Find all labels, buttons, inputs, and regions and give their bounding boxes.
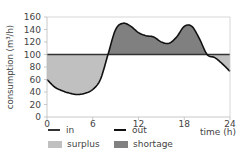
legend-out-label: out bbox=[132, 125, 147, 135]
surplus-swatch bbox=[48, 141, 62, 148]
y-tick-label: 120 bbox=[24, 37, 41, 47]
legend-in-label: in bbox=[66, 125, 74, 135]
y-axis-label: consumption (m³/h) bbox=[5, 25, 15, 109]
x-tick-label: 6 bbox=[90, 119, 96, 129]
legend-in: in bbox=[48, 125, 74, 135]
y-tick-label: 140 bbox=[24, 25, 41, 35]
y-tick-label: 20 bbox=[30, 100, 42, 110]
in-line-swatch bbox=[48, 129, 60, 131]
y-tick-label: 0 bbox=[35, 112, 41, 122]
x-tick-label: 18 bbox=[179, 119, 191, 129]
out-line-swatch bbox=[114, 129, 126, 131]
legend-surplus: surplus bbox=[48, 139, 100, 149]
x-axis-label: time (h) bbox=[200, 127, 236, 137]
y-tick-label: 40 bbox=[30, 87, 42, 97]
shortage-swatch bbox=[114, 141, 128, 148]
area-fills bbox=[47, 23, 230, 94]
y-tick-label: 80 bbox=[30, 62, 42, 72]
y-ticks: 020406080100120140160 bbox=[24, 12, 47, 122]
y-tick-label: 100 bbox=[24, 50, 41, 60]
y-tick-label: 160 bbox=[24, 12, 41, 22]
legend-out: out bbox=[114, 125, 147, 135]
legend-shortage: shortage bbox=[114, 139, 173, 149]
legend-shortage-label: shortage bbox=[133, 139, 173, 149]
legend-surplus-label: surplus bbox=[67, 139, 100, 149]
y-tick-label: 60 bbox=[30, 75, 42, 85]
